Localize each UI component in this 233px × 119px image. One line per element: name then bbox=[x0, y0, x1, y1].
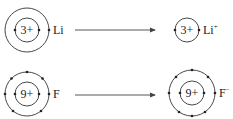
electron bbox=[191, 69, 194, 72]
electron bbox=[204, 111, 207, 114]
electron bbox=[10, 77, 13, 80]
nucleus-label: 3+ bbox=[181, 23, 194, 37]
electron bbox=[38, 29, 41, 32]
electron bbox=[179, 92, 182, 95]
element-symbol: F− bbox=[219, 86, 230, 100]
electron bbox=[174, 29, 177, 32]
electron bbox=[48, 29, 51, 32]
electron bbox=[191, 115, 194, 118]
electron bbox=[38, 93, 41, 96]
electron bbox=[4, 93, 7, 96]
electron bbox=[178, 111, 181, 114]
lithium-atom: 3+ Li bbox=[5, 8, 64, 52]
electron bbox=[198, 29, 201, 32]
electron bbox=[41, 77, 44, 80]
ionic-bonding-diagram: 3+ Li 3+ Li+ 9+ F bbox=[0, 0, 233, 119]
electron bbox=[12, 110, 15, 113]
electron bbox=[48, 93, 51, 96]
fluorine-atom: 9+ F bbox=[4, 71, 60, 116]
fluoride-ion: 9+ F− bbox=[168, 69, 230, 118]
electron bbox=[203, 92, 206, 95]
electron bbox=[168, 92, 171, 95]
element-symbol: F bbox=[53, 87, 60, 101]
electron bbox=[207, 76, 210, 79]
nucleus-label: 9+ bbox=[186, 86, 199, 100]
electron bbox=[26, 71, 29, 74]
element-symbol: Li bbox=[53, 23, 64, 37]
nucleus-label: 9+ bbox=[21, 87, 34, 101]
electron bbox=[214, 92, 217, 95]
electron bbox=[175, 76, 178, 79]
element-symbol: Li+ bbox=[203, 23, 218, 37]
electron bbox=[14, 29, 17, 32]
lithium-ion: 3+ Li+ bbox=[174, 18, 218, 42]
electron bbox=[40, 110, 43, 113]
nucleus-label: 3+ bbox=[21, 23, 34, 37]
electron bbox=[14, 93, 17, 96]
